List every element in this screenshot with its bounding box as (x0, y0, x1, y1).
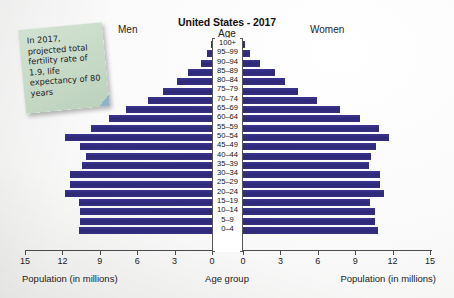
bar-women (243, 171, 380, 178)
bar-men (163, 88, 212, 95)
axis-tick (137, 250, 138, 255)
bar-women (243, 41, 245, 48)
bar-women (243, 143, 376, 150)
axis-tick (25, 250, 26, 255)
bar-women (243, 181, 380, 188)
women-side-label: Women (310, 24, 344, 35)
bar-men (201, 60, 212, 67)
bar-women (243, 218, 375, 225)
age-label: 70–74 (212, 94, 243, 103)
axis-tick-label: 0 (240, 256, 245, 266)
bar-men (86, 153, 212, 160)
bar-women (243, 115, 360, 122)
age-labels: 100+95–9990–9485–8980–8475–7970–7465–696… (212, 38, 243, 233)
bar-men (65, 134, 212, 141)
bar-women (243, 208, 375, 215)
axis-tick-label: 12 (388, 256, 398, 266)
axis-tick (175, 250, 176, 255)
axis-line-right (243, 250, 432, 251)
bar-men (65, 190, 212, 197)
bar-women (243, 88, 298, 95)
bar-women (243, 153, 371, 160)
bar-women (243, 69, 275, 76)
age-label: 60–64 (212, 112, 243, 121)
axis-tick (62, 250, 63, 255)
age-label: 50–54 (212, 131, 243, 140)
axis-caption-right: Population (in millions) (340, 273, 436, 284)
axis-tick-label: 12 (57, 256, 67, 266)
men-side-label: Men (118, 24, 137, 35)
bar-men (126, 106, 212, 113)
sticky-note-text: In 2017, projected total fertility rate … (27, 31, 102, 99)
bar-women (243, 106, 340, 113)
age-label: 40–44 (212, 150, 243, 159)
age-label: 80–84 (212, 75, 243, 84)
bar-women (243, 162, 369, 169)
bar-men (80, 208, 212, 215)
bar-men (79, 227, 212, 234)
axis-tick-label: 15 (20, 256, 30, 266)
age-label: 0–4 (212, 224, 243, 233)
axis-tick (243, 250, 244, 255)
axis-line-left (25, 250, 212, 251)
age-label: 75–79 (212, 84, 243, 93)
age-label: 20–24 (212, 187, 243, 196)
bar-women (243, 60, 260, 67)
axis-tick-label: 3 (278, 256, 283, 266)
bar-men (177, 78, 212, 85)
age-label: 90–94 (212, 57, 243, 66)
bar-men (80, 143, 212, 150)
axis-tick (280, 250, 281, 255)
age-label: 65–69 (212, 103, 243, 112)
age-label: 5–9 (212, 215, 243, 224)
bar-women (243, 125, 379, 132)
bar-men (188, 69, 212, 76)
age-label: 55–59 (212, 122, 243, 131)
sticky-note: In 2017, projected total fertility rate … (18, 22, 110, 114)
bar-men (79, 199, 212, 206)
bar-women (243, 97, 317, 104)
bar-women (243, 78, 285, 85)
age-label: 15–19 (212, 196, 243, 205)
page-root: United States - 2017 Age Men Women 100+9… (0, 0, 454, 298)
bar-men (80, 218, 212, 225)
age-label: 85–89 (212, 66, 243, 75)
bar-women (243, 199, 370, 206)
age-label: 95–99 (212, 47, 243, 56)
axis-tick-label: 15 (425, 256, 435, 266)
axis-tick-label: 6 (315, 256, 320, 266)
bar-women (243, 134, 389, 141)
bar-men (109, 115, 212, 122)
axis-tick-label: 9 (353, 256, 358, 266)
axis-tick (393, 250, 394, 255)
age-label: 35–39 (212, 159, 243, 168)
bar-men (82, 162, 212, 169)
axis-tick (318, 250, 319, 255)
age-label-column: 100+95–9990–9485–8980–8475–7970–7465–696… (212, 38, 243, 252)
age-label: 100+ (212, 38, 243, 47)
axis-tick-label: 0 (209, 256, 214, 266)
bar-women (243, 227, 378, 234)
note-corner-curl-icon (98, 95, 110, 107)
axis-tick-label: 9 (97, 256, 102, 266)
age-label: 10–14 (212, 205, 243, 214)
bar-men (148, 97, 212, 104)
axis-tick (430, 250, 431, 255)
bar-men (70, 181, 212, 188)
axis-tick (100, 250, 101, 255)
age-label: 45–49 (212, 140, 243, 149)
bar-men (70, 171, 212, 178)
bar-women (243, 50, 250, 57)
age-label: 30–34 (212, 168, 243, 177)
age-label: 25–29 (212, 177, 243, 186)
bar-men (91, 125, 212, 132)
axis-tick-label: 3 (172, 256, 177, 266)
bar-women (243, 190, 384, 197)
axis-tick-label: 6 (135, 256, 140, 266)
axis-tick (355, 250, 356, 255)
